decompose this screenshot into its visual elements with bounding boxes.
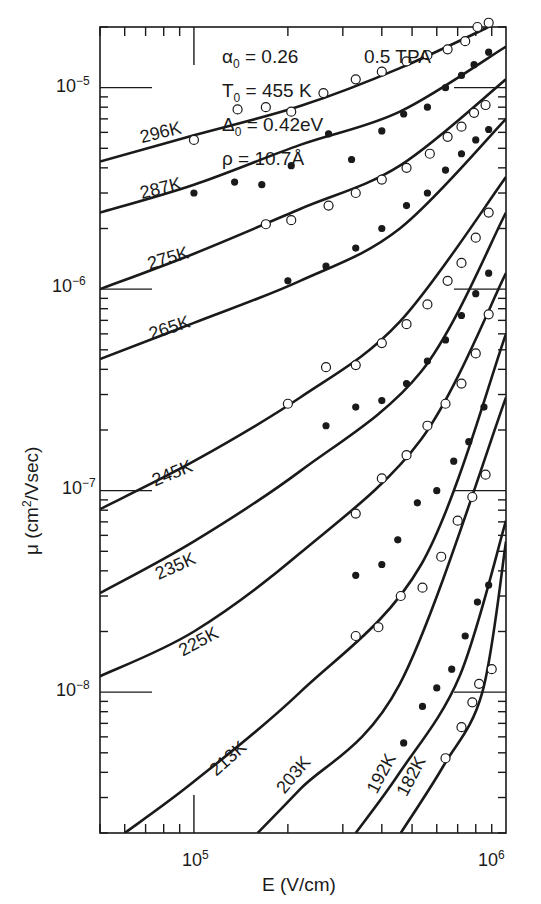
filled-data-point: [323, 423, 329, 429]
open-data-point: [351, 631, 360, 640]
filled-data-point: [458, 313, 464, 319]
open-data-point: [461, 37, 470, 46]
open-data-point: [189, 135, 198, 144]
filled-data-point: [451, 458, 457, 464]
filled-data-point: [458, 72, 464, 78]
filled-data-point: [379, 398, 385, 404]
ytick-label-1e-8: 10−8: [56, 678, 90, 701]
open-data-point: [443, 132, 452, 141]
curve-label-296K: 296K: [138, 118, 184, 148]
filled-data-point: [486, 270, 492, 276]
filled-data-point: [349, 157, 355, 163]
open-data-point: [441, 399, 450, 408]
curve-labels: 296K287K275K265K245K235K225K213K203K192K…: [138, 118, 430, 800]
filled-data-point: [449, 666, 455, 672]
filled-data-point: [232, 179, 238, 185]
open-data-point: [487, 665, 496, 674]
open-data-point: [437, 552, 446, 561]
open-data-point: [471, 233, 480, 242]
open-data-point: [377, 474, 386, 483]
open-data-point: [233, 105, 242, 114]
open-data-point: [481, 470, 490, 479]
open-data-point: [418, 583, 427, 592]
open-data-point: [484, 18, 493, 27]
open-data-point: [351, 189, 360, 198]
open-data-point: [471, 349, 480, 358]
ytick-label-1e-6: 10−6: [52, 274, 86, 297]
open-data-point: [443, 45, 452, 54]
y-axis-label: μ (cm2/Vsec): [20, 447, 43, 555]
xtick-label-1e5: 105: [182, 848, 209, 871]
filled-data-point: [424, 104, 430, 110]
open-data-point: [377, 175, 386, 184]
open-data-point: [402, 451, 411, 460]
sample-label: 0.5 TPA: [364, 46, 431, 68]
filled-data-point: [404, 203, 410, 209]
open-data-point: [374, 623, 383, 632]
open-data-point: [468, 493, 477, 502]
filled-data-point: [353, 245, 359, 251]
curve-label-203K: 203K: [272, 752, 314, 797]
filled-data-point: [424, 358, 430, 364]
param-alpha: α0 = 0.26: [222, 46, 298, 71]
open-data-point: [324, 201, 333, 210]
open-data-point: [470, 108, 479, 117]
filled-data-point: [404, 381, 410, 387]
open-data-point: [402, 163, 411, 172]
open-data-point: [457, 379, 466, 388]
filled-data-point: [419, 703, 425, 709]
param-T0: T0 = 455 K: [222, 80, 312, 105]
ytick-label-1e-5: 10−5: [56, 74, 90, 97]
filled-data-point: [486, 49, 492, 55]
open-data-point: [457, 723, 466, 732]
open-data-point: [481, 101, 490, 110]
filled-data-point: [323, 263, 329, 269]
open-data-point: [443, 276, 452, 285]
ytick-label-1e-7: 10−7: [62, 476, 96, 499]
open-data-point: [261, 220, 270, 229]
filled-data-point: [424, 190, 430, 196]
open-data-point: [425, 149, 434, 158]
filled-data-point: [285, 278, 291, 284]
open-data-point: [423, 421, 432, 430]
filled-data-point: [259, 182, 265, 188]
open-data-point: [473, 23, 482, 32]
curve-label-287K: 287K: [138, 173, 184, 203]
filled-data-point: [486, 126, 492, 132]
open-data-point: [287, 216, 296, 225]
open-data-point: [441, 754, 450, 763]
x-axis-label: E (V/cm): [262, 874, 336, 896]
open-data-point: [319, 89, 328, 98]
curve-label-265K: 265K: [146, 312, 192, 344]
filled-data-point: [353, 404, 359, 410]
filled-data-point: [466, 439, 472, 445]
filled-data-point: [473, 137, 479, 143]
xtick-label-1e6: 106: [478, 848, 505, 871]
open-data-point: [377, 339, 386, 348]
filled-data-point: [353, 572, 359, 578]
filled-data-point: [434, 685, 440, 691]
open-data-point: [377, 67, 386, 76]
open-data-point: [484, 310, 493, 319]
open-data-point: [283, 399, 292, 408]
open-data-point: [396, 592, 405, 601]
filled-data-point: [458, 151, 464, 157]
filled-data-point: [401, 740, 407, 746]
curve-label-245K: 245K: [149, 456, 195, 490]
open-data-point: [457, 258, 466, 267]
param-delta0: Δ0 = 0.42eV: [222, 114, 323, 139]
filled-data-point: [401, 111, 407, 117]
filled-data-point: [481, 404, 487, 410]
curve-label-275K: 275K: [145, 243, 191, 274]
filled-data-point: [379, 128, 385, 134]
open-data-point: [351, 75, 360, 84]
filled-data-point: [395, 537, 401, 543]
filled-data-point: [473, 291, 479, 297]
filled-data-point: [443, 337, 449, 343]
open-data-point: [322, 363, 331, 372]
filled-data-point: [414, 500, 420, 506]
open-data-point: [351, 509, 360, 518]
open-data-point: [468, 698, 477, 707]
open-data-point: [351, 361, 360, 370]
open-data-point: [475, 679, 484, 688]
